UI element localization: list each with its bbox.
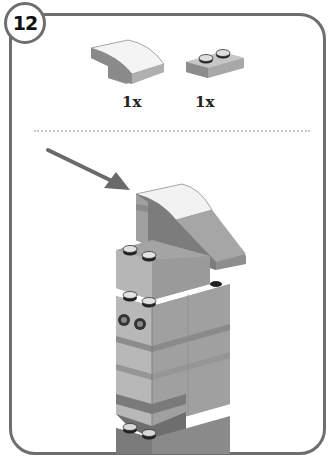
step-number-badge: 12 bbox=[4, 2, 46, 44]
part-curved-slope-icon bbox=[88, 36, 168, 86]
step-number: 12 bbox=[13, 12, 37, 34]
section-divider bbox=[34, 130, 310, 132]
model-illustration bbox=[112, 172, 252, 454]
part-2-quantity: 1x bbox=[195, 93, 214, 111]
part-plate-1x2-icon bbox=[184, 46, 246, 82]
part-1-quantity: 1x bbox=[122, 93, 141, 111]
